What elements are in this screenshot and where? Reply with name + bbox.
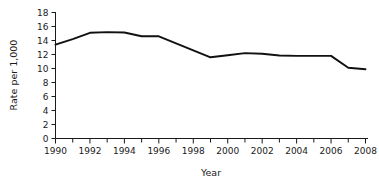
y-axis-title: Rate per 1,000 xyxy=(8,40,19,111)
y-tick-label: 4 xyxy=(43,106,49,116)
y-tick-label: 6 xyxy=(43,92,49,102)
y-tick-label: 14 xyxy=(37,36,49,46)
y-tick-label: 10 xyxy=(37,64,49,74)
x-axis-title: Year xyxy=(200,167,221,178)
x-tick-label: 2002 xyxy=(251,146,274,156)
y-tick-label: 0 xyxy=(43,134,49,144)
chart-canvas: 024681012141618 199019921994199619982000… xyxy=(0,0,379,184)
x-tick-label: 2004 xyxy=(285,146,308,156)
y-tick-label: 16 xyxy=(37,22,49,32)
y-tick-label: 8 xyxy=(43,78,49,88)
x-tick-label: 1994 xyxy=(113,146,136,156)
x-tick-label: 2008 xyxy=(354,146,377,156)
x-tick-label: 2000 xyxy=(216,146,239,156)
x-tick-label: 1998 xyxy=(182,146,205,156)
y-tick-label: 12 xyxy=(37,50,48,60)
chart-background xyxy=(0,0,379,184)
line-chart: 024681012141618 199019921994199619982000… xyxy=(0,0,379,184)
x-tick-label: 2006 xyxy=(320,146,343,156)
y-tick-label: 2 xyxy=(43,120,49,130)
x-tick-label: 1996 xyxy=(147,146,170,156)
x-tick-label: 1992 xyxy=(78,146,101,156)
y-tick-label: 18 xyxy=(37,8,49,18)
x-tick-label: 1990 xyxy=(44,146,67,156)
